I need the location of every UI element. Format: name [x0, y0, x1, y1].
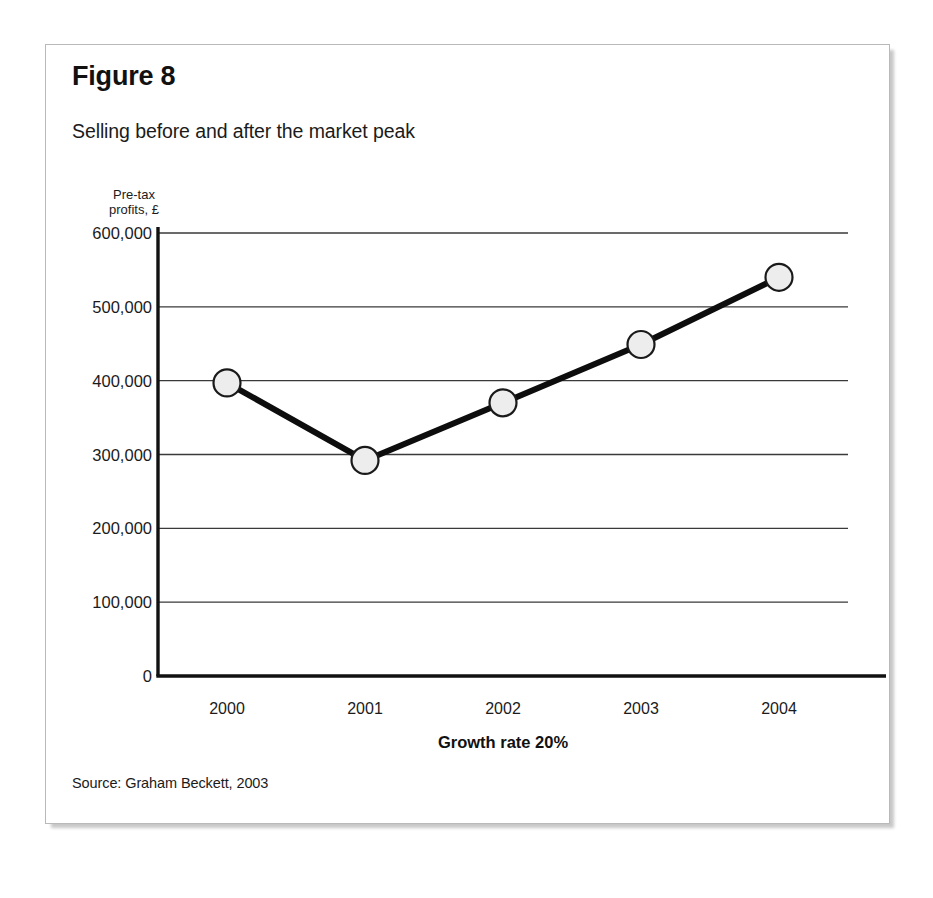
x-axis-tick-label: 2002 — [485, 700, 521, 718]
x-axis-tick-label: 2001 — [347, 700, 383, 718]
chart-axes — [156, 227, 886, 676]
data-point-marker[interactable] — [352, 447, 379, 474]
figure-source: Source: Graham Beckett, 2003 — [72, 775, 268, 791]
figure-card: Figure 8 Selling before and after the ma… — [45, 44, 890, 824]
chart-plot-area: Pre-tax profits, £ 600,000500,000400,000… — [46, 45, 891, 825]
chart-gridlines — [158, 233, 848, 602]
chart-line-series — [227, 277, 779, 460]
x-axis-tick-label: 2000 — [209, 700, 245, 718]
chart-data-markers — [214, 264, 793, 474]
x-axis-tick-label: 2003 — [623, 700, 659, 718]
x-axis-tick-label: 2004 — [761, 700, 797, 718]
x-axis-title: Growth rate 20% — [158, 733, 848, 752]
data-point-marker[interactable] — [214, 369, 241, 396]
data-point-marker[interactable] — [766, 264, 793, 291]
data-point-marker[interactable] — [490, 389, 517, 416]
data-point-marker[interactable] — [628, 331, 655, 358]
series-polyline — [227, 277, 779, 460]
